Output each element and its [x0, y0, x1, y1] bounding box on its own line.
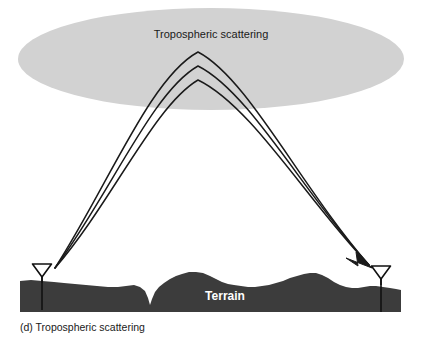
troposphere-title-label: Tropospheric scattering [154, 28, 269, 40]
antenna-right-dish-icon [372, 266, 391, 279]
terrain-label: Terrain [205, 289, 245, 303]
antenna-left-dish-icon [33, 264, 52, 277]
figure-caption: (d) Tropospheric scattering [20, 321, 145, 333]
ray-arrowhead-icon [346, 252, 372, 268]
figure-canvas: Tropospheric scattering Terrain (d) Trop… [0, 0, 423, 345]
tropospheric-scattering-figure: Tropospheric scattering Terrain (d) Trop… [0, 0, 423, 345]
troposphere-ellipse [18, 8, 404, 110]
